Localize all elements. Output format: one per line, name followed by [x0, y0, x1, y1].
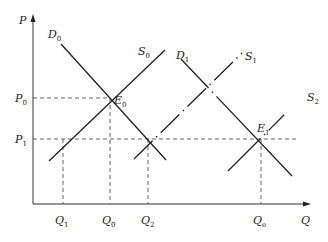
e1-label: E1: [256, 122, 270, 137]
qe-label: Qe: [253, 214, 266, 229]
p0-label: P0: [14, 92, 27, 107]
s1-label: S1: [245, 50, 257, 65]
x-axis-arrow-icon: [303, 202, 311, 207]
q1-label: Q1: [55, 214, 69, 229]
supply-curve-s2: [228, 99, 300, 171]
s2-label: S2: [307, 91, 319, 106]
p1-label: P1: [14, 133, 27, 148]
curve-labels: D0 S0 D1 S1 S2: [47, 28, 319, 106]
quantity-labels: Q1 Q0 Q2 Qe: [55, 214, 266, 229]
demand-curve-d1: [181, 59, 292, 176]
s0-label: S0: [138, 45, 150, 60]
q0-label: Q0: [102, 214, 116, 229]
supply-demand-diagram: P Q D0 S0 D1 S1 S2 E0 E1 P0 P1: [0, 0, 328, 242]
d0-label: D0: [47, 28, 61, 43]
supply-curve-s0: [49, 50, 165, 161]
y-axis-label: P: [18, 14, 27, 27]
q2-label: Q2: [141, 214, 155, 229]
y-axis-arrow-icon: [31, 14, 36, 22]
curves: [49, 44, 300, 176]
x-axis-label: Q: [301, 214, 310, 227]
price-labels: P0 P1: [14, 92, 27, 148]
guide-lines: [33, 98, 296, 204]
d1-label: D1: [175, 49, 189, 64]
equilibrium-labels: E0 E1: [113, 94, 270, 137]
e0-label: E0: [113, 94, 127, 109]
